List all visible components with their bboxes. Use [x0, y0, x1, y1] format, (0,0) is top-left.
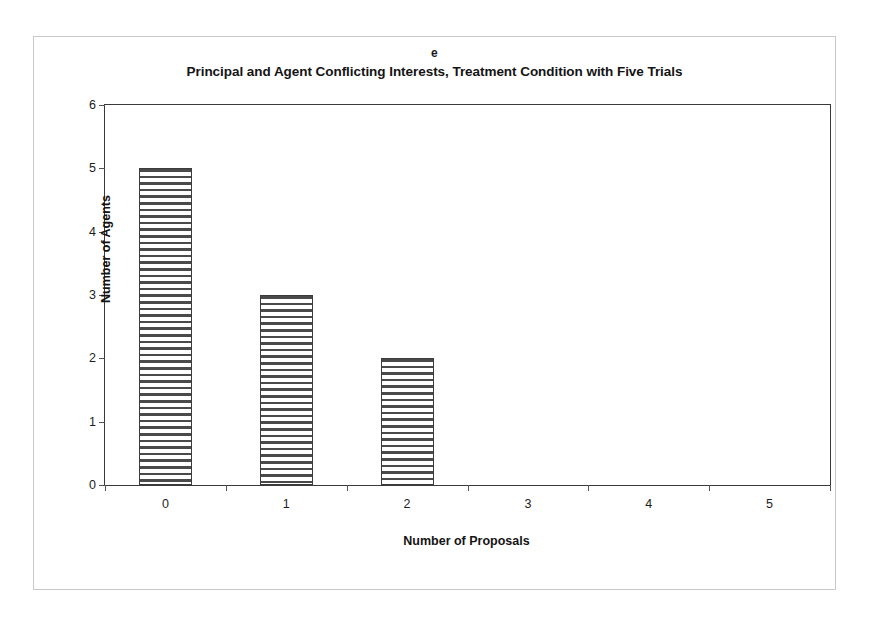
- x-tick-label: 4: [645, 497, 652, 511]
- panel-label: e: [34, 46, 835, 60]
- bar-1: [260, 295, 313, 485]
- y-tick-mark: [99, 358, 105, 359]
- y-tick-label: 6: [89, 98, 96, 112]
- y-tick-mark: [99, 422, 105, 423]
- x-tick-mark: [105, 485, 106, 491]
- y-tick-label: 0: [89, 478, 96, 492]
- x-tick-label: 2: [404, 497, 411, 511]
- plot-area: 0123456012345: [104, 104, 831, 486]
- x-axis-title: Number of Proposals: [104, 534, 829, 548]
- x-tick-mark: [709, 485, 710, 491]
- x-tick-mark: [830, 485, 831, 491]
- x-tick-mark: [588, 485, 589, 491]
- x-tick-label: 3: [524, 497, 531, 511]
- y-tick-label: 2: [89, 351, 96, 365]
- y-tick-label: 4: [89, 225, 96, 239]
- chart-title: Principal and Agent Conflicting Interest…: [34, 64, 835, 79]
- x-tick-label: 5: [766, 497, 773, 511]
- y-axis-title: Number of Agents: [99, 169, 113, 329]
- y-tick-mark: [99, 105, 105, 106]
- bar-0: [139, 168, 192, 485]
- x-tick-mark: [468, 485, 469, 491]
- x-tick-mark: [226, 485, 227, 491]
- y-tick-label: 5: [89, 161, 96, 175]
- y-tick-label: 1: [89, 415, 96, 429]
- figure-frame: e Principal and Agent Conflicting Intere…: [33, 36, 836, 590]
- y-tick-label: 3: [89, 288, 96, 302]
- bar-2: [381, 358, 434, 485]
- x-tick-mark: [347, 485, 348, 491]
- x-tick-label: 0: [162, 497, 169, 511]
- x-tick-label: 1: [283, 497, 290, 511]
